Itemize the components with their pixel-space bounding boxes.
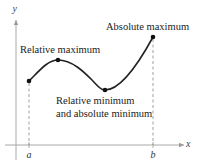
absolute-maximum-label: Absolute maximum xyxy=(106,21,189,32)
absolute-maximum-point xyxy=(151,35,156,40)
interval-right-label: b xyxy=(151,149,156,160)
relative-minimum-label-line2: and absolute minimum xyxy=(56,108,152,119)
extrema-diagram: y x Relative maximum Absolute maximum Re… xyxy=(0,0,199,164)
relative-minimum-point xyxy=(103,88,108,93)
relative-maximum-point xyxy=(56,58,61,63)
relative-maximum-label: Relative maximum xyxy=(20,44,100,55)
left-endpoint-point xyxy=(27,79,32,84)
y-axis-label: y xyxy=(12,3,18,14)
x-axis-label: x xyxy=(185,138,191,149)
interval-left-label: a xyxy=(27,149,32,160)
relative-minimum-label-line1: Relative minimum xyxy=(56,95,134,106)
